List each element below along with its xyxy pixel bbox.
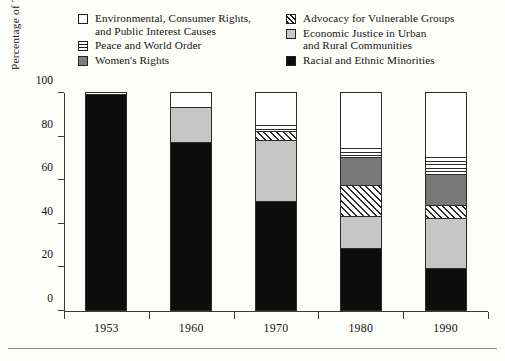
x-tick-label-1970: 1970 xyxy=(241,321,311,336)
segment-1970-diagonal-hatch[interactable] xyxy=(256,132,296,141)
y-tick-40 xyxy=(58,223,64,224)
y-tick-100 xyxy=(58,92,64,93)
legend-label-economic-justice: Economic Justice in Urban and Rural Comm… xyxy=(303,27,426,52)
segment-1953-horizontal-stripes[interactable] xyxy=(86,93,126,95)
plot-area: 020406080100 xyxy=(64,93,488,312)
x-tick-label-1990: 1990 xyxy=(411,321,481,336)
x-tick-2 xyxy=(234,312,235,319)
legend-label-environmental: Environmental, Consumer Rights, and Publ… xyxy=(95,12,251,37)
x-tick-5 xyxy=(488,312,489,319)
segment-1990-black[interactable] xyxy=(426,269,466,310)
chart-legend: Environmental, Consumer Rights, and Publ… xyxy=(78,12,490,84)
legend-item-environmental: Environmental, Consumer Rights, and Publ… xyxy=(78,12,286,37)
segment-1970-light-gray[interactable] xyxy=(256,141,296,202)
bar-1990[interactable] xyxy=(425,92,467,311)
legend-item-womens-rights: Women's Rights xyxy=(78,54,286,67)
bottom-rule-divider xyxy=(8,348,497,349)
y-tick-label-0: 0 xyxy=(21,292,53,304)
legend-swatch-white-square-icon xyxy=(78,14,88,24)
legend-column-right: Advocacy for Vulnerable Groups Economic … xyxy=(286,12,490,84)
y-tick-label-40: 40 xyxy=(21,205,53,217)
x-tick-label-1980: 1980 xyxy=(326,321,396,336)
x-tick-3 xyxy=(318,312,319,319)
y-axis-title: Percentage of Total Grant Dollars xyxy=(9,0,21,100)
bar-1960[interactable] xyxy=(170,92,212,311)
x-tick-4 xyxy=(403,312,404,319)
segment-1990-light-gray[interactable] xyxy=(426,219,466,269)
legend-swatch-dark-gray-icon xyxy=(78,56,88,66)
chart-figure: Environmental, Consumer Rights, and Publ… xyxy=(0,0,505,361)
legend-swatch-light-gray-icon xyxy=(286,29,296,39)
x-tick-label-1960: 1960 xyxy=(156,321,226,336)
x-tick-label-1953: 1953 xyxy=(71,321,141,336)
segment-1980-black[interactable] xyxy=(341,249,381,310)
segment-1953-black[interactable] xyxy=(86,95,126,310)
y-tick-60 xyxy=(58,179,64,180)
y-axis-line xyxy=(64,93,65,312)
bar-1953[interactable] xyxy=(85,92,127,311)
y-tick-20 xyxy=(58,266,64,267)
legend-item-advocacy: Advocacy for Vulnerable Groups xyxy=(286,12,490,25)
y-tick-0 xyxy=(58,310,64,311)
x-axis: 19531960197019801990 xyxy=(64,312,488,340)
legend-swatch-black-icon xyxy=(286,56,296,66)
segment-1990-diagonal-hatch[interactable] xyxy=(426,206,466,219)
y-tick-label-80: 80 xyxy=(21,118,53,130)
segment-1990-horizontal-stripes[interactable] xyxy=(426,158,466,175)
legend-label-peace: Peace and World Order xyxy=(95,39,201,52)
bar-1980[interactable] xyxy=(340,92,382,311)
segment-1960-light-gray[interactable] xyxy=(171,108,211,143)
bar-1970[interactable] xyxy=(255,92,297,311)
legend-label-racial-ethnic: Racial and Ethnic Minorities xyxy=(303,54,435,67)
segment-1980-diagonal-hatch[interactable] xyxy=(341,186,381,216)
y-tick-label-60: 60 xyxy=(21,161,53,173)
legend-column-left: Environmental, Consumer Rights, and Publ… xyxy=(78,12,286,84)
y-tick-80 xyxy=(58,136,64,137)
legend-swatch-horizontal-stripes-icon xyxy=(78,41,88,51)
x-tick-1 xyxy=(149,312,150,319)
legend-label-advocacy: Advocacy for Vulnerable Groups xyxy=(303,12,455,25)
segment-1960-white[interactable] xyxy=(171,93,211,108)
segment-1970-black[interactable] xyxy=(256,202,296,311)
segment-1980-dark-gray[interactable] xyxy=(341,158,381,186)
y-tick-label-20: 20 xyxy=(21,248,53,260)
segment-1970-white[interactable] xyxy=(256,93,296,126)
segment-1980-horizontal-stripes[interactable] xyxy=(341,149,381,158)
legend-label-womens-rights: Women's Rights xyxy=(95,54,169,67)
legend-swatch-diagonal-hatch-icon xyxy=(286,14,296,24)
legend-item-racial-ethnic: Racial and Ethnic Minorities xyxy=(286,54,490,67)
segment-1990-dark-gray[interactable] xyxy=(426,175,466,205)
x-tick-0 xyxy=(64,312,65,319)
segment-1970-horizontal-stripes[interactable] xyxy=(256,126,296,133)
y-tick-label-100: 100 xyxy=(21,74,53,86)
segment-1980-light-gray[interactable] xyxy=(341,217,381,250)
segment-1990-white[interactable] xyxy=(426,93,466,158)
segment-1960-black[interactable] xyxy=(171,143,211,310)
segment-1980-white[interactable] xyxy=(341,93,381,149)
legend-item-economic-justice: Economic Justice in Urban and Rural Comm… xyxy=(286,27,490,52)
legend-item-peace: Peace and World Order xyxy=(78,39,286,52)
